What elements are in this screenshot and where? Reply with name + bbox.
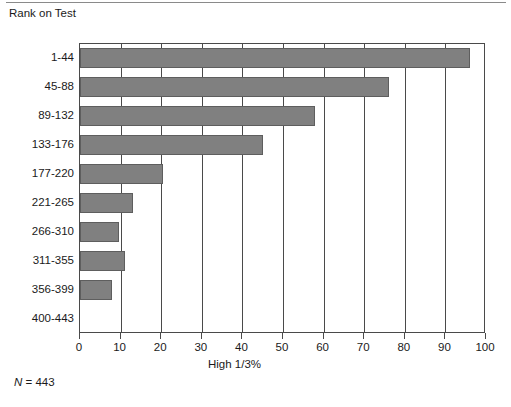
tick-mark-40 <box>241 333 242 339</box>
category-label: 400-443 <box>4 312 74 325</box>
tick-mark-0 <box>79 333 80 339</box>
category-label: 311-355 <box>4 254 74 267</box>
tick-mark-50 <box>282 333 283 339</box>
bar <box>80 48 470 68</box>
category-label: 221-265 <box>4 196 74 209</box>
bar <box>80 280 112 300</box>
tick-mark-30 <box>201 333 202 339</box>
x-tick-label: 20 <box>140 341 180 354</box>
tick-mark-90 <box>444 333 445 339</box>
plot-area <box>79 43 485 333</box>
x-tick-label: 70 <box>343 341 383 354</box>
tick-mark-10 <box>120 333 121 339</box>
bar-row <box>80 247 484 276</box>
category-axis-labels: 1-4445-8889-132133-176177-220221-265266-… <box>4 43 74 333</box>
x-tick-label: 80 <box>384 341 424 354</box>
bar <box>80 77 389 97</box>
category-label: 177-220 <box>4 167 74 180</box>
bar-row <box>80 44 484 73</box>
category-label: 133-176 <box>4 138 74 151</box>
category-label: 89-132 <box>4 109 74 122</box>
bar-row <box>80 189 484 218</box>
chart-title: Rank on Test <box>9 6 76 20</box>
category-label: 356-399 <box>4 283 74 296</box>
sample-size-value: = 443 <box>22 376 54 388</box>
bar-row <box>80 218 484 247</box>
bar-row <box>80 160 484 189</box>
x-axis-title-text: High 1/3% <box>208 358 261 370</box>
category-label: 1-44 <box>4 51 74 64</box>
tick-mark-60 <box>323 333 324 339</box>
x-tick-label: 30 <box>181 341 221 354</box>
tick-mark-100 <box>485 333 486 339</box>
bar <box>80 251 125 271</box>
tick-mark-80 <box>404 333 405 339</box>
bar-row <box>80 102 484 131</box>
bar <box>80 135 263 155</box>
bar-row <box>80 305 484 334</box>
x-tick-label: 40 <box>221 341 261 354</box>
x-tick-label: 100 <box>465 341 505 354</box>
category-label: 266-310 <box>4 225 74 238</box>
bar <box>80 106 315 126</box>
x-tick-label: 0 <box>59 341 99 354</box>
header-rule <box>6 2 506 3</box>
x-tick-label: 50 <box>262 341 302 354</box>
x-tick-label: 10 <box>100 341 140 354</box>
bar <box>80 222 119 242</box>
bar-row <box>80 276 484 305</box>
x-axis-title: High 1/3% <box>0 358 511 370</box>
category-label: 45-88 <box>4 80 74 93</box>
tick-mark-20 <box>160 333 161 339</box>
bar-row <box>80 73 484 102</box>
bar <box>80 164 163 184</box>
bar-row <box>80 131 484 160</box>
bar <box>80 193 133 213</box>
x-tick-label: 90 <box>424 341 464 354</box>
x-tick-label: 60 <box>303 341 343 354</box>
sample-size-note: N = 443 <box>14 376 55 388</box>
tick-mark-70 <box>363 333 364 339</box>
